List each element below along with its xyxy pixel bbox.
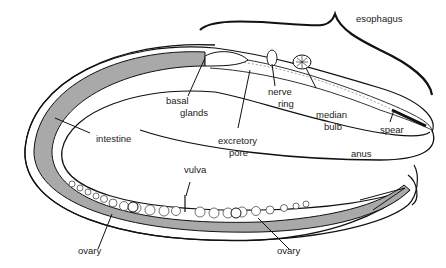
label-vulva: vulva: [184, 164, 206, 176]
label-excretory-pore-line1: excretory: [218, 135, 257, 147]
label-excretory-pore-line2: pore: [229, 147, 248, 159]
label-spear: spear: [380, 124, 404, 136]
label-intestine: intestine: [96, 133, 131, 145]
label-median-bulb-line2: bulb: [324, 121, 342, 133]
label-ovary-right: ovary: [277, 245, 300, 257]
label-ovary-left: ovary: [78, 245, 101, 257]
label-anus: anus: [351, 148, 372, 160]
label-nerve-ring-line2: ring: [278, 98, 294, 110]
label-basal-glands-line2: glands: [180, 107, 208, 119]
label-median-bulb-line1: median: [316, 109, 347, 121]
nematode-diagram: esophagus basal glands nerve ring median…: [0, 0, 446, 268]
label-basal-glands-line1: basal: [166, 95, 189, 107]
label-nerve-ring-line1: nerve: [268, 86, 292, 98]
label-esophagus: esophagus: [356, 13, 402, 25]
